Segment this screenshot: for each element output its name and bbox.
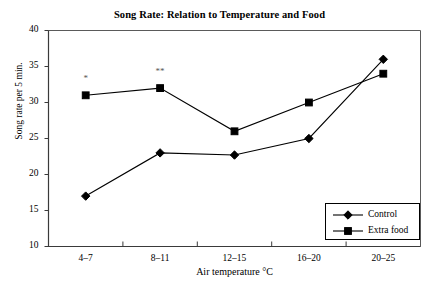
- legend-label: Control: [368, 209, 397, 219]
- legend-label: Extra food: [368, 225, 408, 235]
- significance-marker: *: [71, 73, 101, 83]
- y-axis-tick-label: 20: [13, 168, 39, 178]
- x-axis-tick-label: 16–20: [272, 253, 346, 263]
- y-axis-tick-label: 25: [13, 132, 39, 142]
- legend-item-control[interactable]: Control: [326, 207, 421, 224]
- data-point-marker: [230, 151, 238, 159]
- legend-marker-diamond-icon: [330, 207, 368, 223]
- x-axis-title: Air temperature °C: [48, 266, 421, 277]
- data-point-marker: [380, 70, 387, 77]
- x-axis-tick-label: 4–7: [49, 253, 123, 263]
- y-axis-tick-label: 30: [13, 96, 39, 106]
- data-point-marker: [82, 92, 89, 99]
- legend-marker-square-icon: [330, 223, 368, 239]
- x-axis-tick-label: 20–25: [346, 253, 420, 263]
- data-point-marker: [344, 211, 352, 219]
- chart-title: Song Rate: Relation to Temperature and F…: [0, 9, 439, 20]
- y-axis-tick-label: 35: [13, 60, 39, 70]
- y-axis-tick-label: 10: [13, 240, 39, 250]
- y-axis-tick-label: 15: [13, 204, 39, 214]
- chart-legend: ControlExtra food: [325, 203, 420, 240]
- chart-container: Song Rate: Relation to Temperature and F…: [0, 0, 439, 290]
- plot-area: [0, 0, 439, 290]
- legend-item-extra-food[interactable]: Extra food: [326, 223, 421, 240]
- data-point-marker: [82, 192, 90, 200]
- series-line: [86, 74, 384, 132]
- significance-marker: **: [145, 66, 175, 76]
- data-point-marker: [306, 99, 313, 106]
- y-axis-tick-label: 40: [13, 24, 39, 34]
- x-axis-tick-label: 8–11: [123, 253, 197, 263]
- data-point-marker: [231, 128, 238, 135]
- x-axis-tick-label: 12–15: [197, 253, 271, 263]
- data-point-marker: [345, 228, 352, 235]
- data-point-marker: [156, 149, 164, 157]
- data-point-marker: [157, 85, 164, 92]
